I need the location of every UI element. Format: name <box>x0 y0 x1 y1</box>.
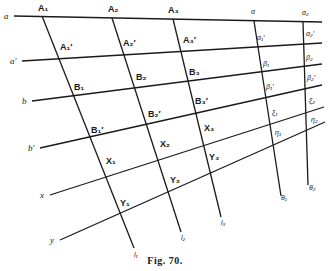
point-label: A₁′ <box>60 42 72 52</box>
row-line <box>50 107 324 195</box>
point-label: A₁ <box>38 3 48 13</box>
point-label: A₃ <box>168 5 179 15</box>
column-line <box>42 16 134 248</box>
greek-point-label: β₁ <box>262 60 270 68</box>
point-label: Y₃ <box>209 152 219 162</box>
point-label: B₃′ <box>195 96 208 106</box>
point-labels: A₁A₂A₃A₁′A₂′A₃′B₁B₂B₃B₁′B₂′B₃′X₁X₂X₃Y₁Y₂… <box>38 3 219 208</box>
line-end-label: θ₂ <box>309 184 316 191</box>
point-label: X₁ <box>106 156 116 166</box>
greek-point-label: α₂ <box>302 9 309 16</box>
row-label: y <box>49 235 54 245</box>
greek-labels: αα₂α₁′α₂′β₁β₂β₁′β₂′ξ₁ξ₂η₁η₂ <box>251 8 318 137</box>
line-end-label: l₃ <box>221 219 226 226</box>
point-label: B₂′ <box>148 109 161 119</box>
point-label: X₂ <box>160 139 170 149</box>
greek-point-label: α <box>251 8 256 15</box>
greek-point-label: β₁′ <box>265 83 274 91</box>
greek-point-label: η₂ <box>311 116 318 124</box>
row-labels: aa′bb′xy <box>4 11 54 245</box>
row-label: x <box>39 190 44 200</box>
line-end-label: l₂ <box>181 234 186 241</box>
line-end-label: θ₁ <box>281 194 288 201</box>
greek-point-label: α₂′ <box>306 30 315 37</box>
point-label: X₃ <box>204 123 214 133</box>
point-label: B₁ <box>74 82 84 92</box>
column-lines <box>42 16 308 248</box>
greek-point-label: α₁′ <box>257 34 265 41</box>
point-label: A₂ <box>108 4 119 14</box>
column-line <box>303 22 308 185</box>
column-line <box>173 19 221 217</box>
greek-point-label: η₁ <box>275 129 282 137</box>
point-label: A₃′ <box>183 35 196 45</box>
row-label: b <box>22 96 27 106</box>
point-label: B₂ <box>136 72 147 82</box>
row-line <box>14 16 322 22</box>
greek-point-label: β₂ <box>305 54 313 62</box>
line-end-label: l₁ <box>134 251 139 258</box>
row-line <box>60 122 325 240</box>
point-label: A₂′ <box>123 38 136 48</box>
greek-point-label: ξ₁ <box>272 109 278 117</box>
greek-point-label: ξ₂ <box>309 97 315 105</box>
point-label: B₃ <box>189 67 200 77</box>
point-label: Y₁ <box>120 198 130 208</box>
row-label: b′ <box>28 143 36 153</box>
fig-70-diagram: aa′bb′xy A₁A₂A₃A₁′A₂′A₃′B₁B₂B₃B₁′B₂′B₃′X… <box>0 0 330 271</box>
row-label: a <box>4 11 9 21</box>
point-label: Y₂ <box>170 175 180 185</box>
point-label: B₁′ <box>91 125 103 135</box>
row-label: a′ <box>10 56 18 66</box>
figure-caption: Fig. 70. <box>147 255 182 266</box>
greek-point-label: β₂′ <box>306 74 316 82</box>
